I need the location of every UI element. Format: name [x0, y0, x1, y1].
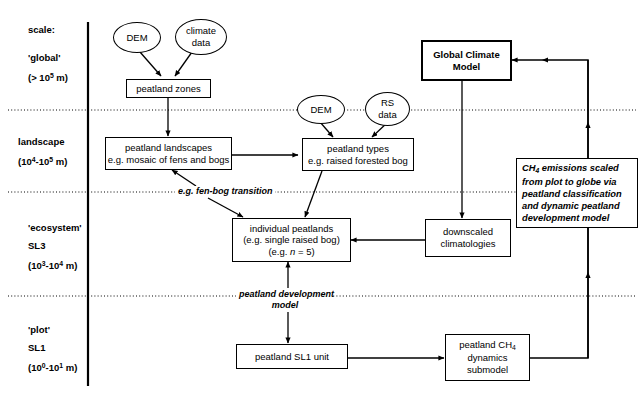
node-peatland-landscapes-text: peatland landscapes e.g. mosaic of fens … [108, 142, 229, 165]
scale-sublabel-plot: SL1 [28, 342, 45, 353]
edge-label-fen-bog-transition: e.g. fen-bog transition [176, 186, 275, 197]
node-climate-data-line2: data [186, 37, 216, 49]
node-ch4-submodel-line1: peatland CH4 [459, 339, 516, 352]
node-rs-data-line1: RS [378, 97, 397, 109]
node-rs-data[interactable]: RS data [365, 92, 410, 126]
node-dem-global[interactable]: DEM [113, 22, 161, 53]
node-individual-peatlands-line1: individual peatlands [243, 223, 340, 235]
scale-range-landscape-tail: m) [53, 156, 67, 167]
node-global-climate-model-line2: Model [433, 61, 500, 73]
node-ch4-dynamics-submodel-text: peatland CH4 dynamics submodel [459, 339, 516, 375]
node-downscaled-climatologies-text: downscaled climatologies [441, 226, 496, 249]
node-peatland-landscapes-line1: peatland landscapes [108, 142, 229, 154]
scale-range-ecosystem-mid: -10 [46, 260, 60, 271]
edge-types-to-individual [305, 171, 322, 217]
node-peatland-landscapes-line2: e.g. mosaic of fens and bogs [108, 154, 229, 166]
scale-range-plot-mid: -10 [46, 362, 60, 373]
edge-label-devmodel-line1: peatland development [239, 289, 331, 300]
node-ch4-emissions-note[interactable]: CH4 emissions scaled from plot to globe … [516, 158, 638, 228]
edge-label-devmodel-line2: model [239, 300, 331, 311]
scale-label-landscape: landscape [18, 136, 64, 147]
node-rs-data-text: RS data [378, 97, 397, 120]
scale-range-landscape-base: (10 [18, 156, 32, 167]
scale-range-landscape: (104-105 m) [18, 156, 67, 167]
diagram-canvas: scale: 'global' (> 105 m) landscape (104… [0, 0, 644, 409]
scale-range-plot-base: (10 [28, 362, 42, 373]
node-ch4-note-line3: peatland classification [522, 188, 622, 200]
edge-riser-arrowhead-top [542, 57, 548, 62]
scale-range-ecosystem-tail: m) [63, 260, 77, 271]
scale-label-plot: 'plot' [28, 324, 50, 335]
scale-range-global: (> 105 m) [28, 72, 68, 83]
node-individual-peatlands-line3-pre: (e.g. [268, 246, 290, 257]
edge-dem-global-to-zones [140, 52, 161, 76]
edge-fenbog-to-individual [208, 198, 243, 217]
node-global-climate-model-line1: Global Climate [433, 49, 500, 61]
node-individual-peatlands-line2: (e.g. single raised bog) [243, 234, 340, 246]
node-global-climate-model-text: Global Climate Model [433, 49, 500, 72]
edge-climate-data-to-zones [175, 52, 192, 76]
node-peatland-types[interactable]: peatland types e.g. raised forested bog [302, 138, 414, 171]
node-ch4-submodel-line1-sub: 4 [512, 344, 516, 351]
node-ch4-submodel-line2: dynamics [459, 352, 516, 364]
node-climate-data[interactable]: climate data [175, 19, 227, 55]
node-ch4-note-line5: development model [522, 212, 622, 224]
node-peatland-zones[interactable]: peatland zones [126, 79, 211, 98]
scale-range-ecosystem: (103-104 m) [28, 260, 77, 271]
node-individual-peatlands[interactable]: individual peatlands (e.g. single raised… [232, 218, 351, 262]
node-individual-peatlands-line3: (e.g. n = 5) [243, 246, 340, 258]
scale-range-global-base: (> 10 [28, 72, 50, 83]
node-rs-data-line2: data [378, 109, 397, 121]
scale-range-ecosystem-base: (10 [28, 260, 42, 271]
node-peatland-types-text: peatland types e.g. raised forested bog [308, 143, 408, 166]
node-peatland-types-line2: e.g. raised forested bog [308, 155, 408, 167]
node-ch4-note-line2: from plot to globe via [522, 176, 622, 188]
node-climate-data-text: climate data [186, 25, 216, 48]
scale-range-landscape-mid: -10 [36, 156, 50, 167]
node-ch4-submodel-line3: submodel [459, 364, 516, 376]
node-ch4-note-line1-pre: CH [522, 163, 535, 173]
node-ch4-note-line1: CH4 emissions scaled [522, 162, 622, 175]
scale-label-ecosystem: 'ecosystem' [28, 222, 82, 233]
node-peatland-sl1-unit[interactable]: peatland SL1 unit [236, 344, 348, 369]
node-global-climate-model[interactable]: Global Climate Model [421, 40, 512, 81]
edge-label-peatland-development-model: peatland development model [237, 289, 333, 312]
node-peatland-types-line1: peatland types [308, 143, 408, 155]
node-downscaled-climatologies-line1: downscaled [441, 226, 496, 238]
scale-range-global-tail: m) [54, 72, 68, 83]
node-downscaled-climatologies-line2: climatologies [441, 238, 496, 250]
scale-label-global: 'global' [28, 52, 61, 63]
node-individual-peatlands-line3-post: = 5) [295, 246, 314, 257]
scale-range-plot: (100-101 m) [28, 362, 77, 373]
node-individual-peatlands-text: individual peatlands (e.g. single raised… [243, 223, 340, 258]
edge-dem-landscape-to-types [320, 122, 333, 137]
node-downscaled-climatologies[interactable]: downscaled climatologies [425, 219, 511, 257]
node-ch4-note-line1-post: emissions scaled [539, 163, 619, 173]
scale-axis-title: scale: [28, 24, 55, 35]
node-ch4-emissions-note-text: CH4 emissions scaled from plot to globe … [522, 162, 622, 224]
edge-fenbog-to-landscapes [172, 170, 196, 186]
node-dem-landscape[interactable]: DEM [297, 95, 345, 124]
node-ch4-submodel-line1-pre: peatland CH [459, 339, 512, 350]
node-ch4-dynamics-submodel[interactable]: peatland CH4 dynamics submodel [445, 334, 530, 381]
scale-sublabel-ecosystem: SL3 [28, 240, 45, 251]
scale-range-plot-tail: m) [63, 362, 77, 373]
node-ch4-note-line4: and dynamic peatland [522, 200, 622, 212]
node-peatland-landscapes[interactable]: peatland landscapes e.g. mosaic of fens … [105, 137, 232, 170]
node-climate-data-line1: climate [186, 25, 216, 37]
